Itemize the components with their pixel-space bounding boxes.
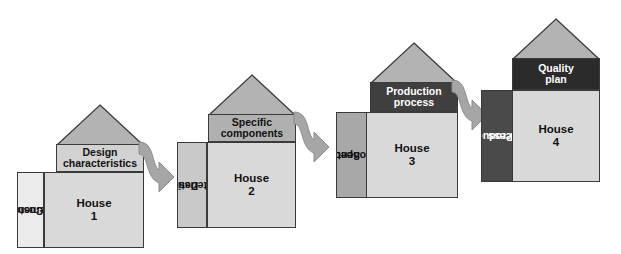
arrow-2-to-3-icon xyxy=(290,106,332,168)
house-4-body-line2: 4 xyxy=(553,136,559,148)
house-3-header-line2: process xyxy=(394,96,434,108)
house-3-header-line1: Production xyxy=(386,85,441,97)
house-3-sidebar-line2: components xyxy=(336,149,367,160)
house-3-header-band: Production process xyxy=(370,82,458,112)
house-4-sidebar-line2: process xyxy=(481,130,513,141)
house-2-roof-icon xyxy=(208,74,296,116)
house-1-body: House 1 xyxy=(44,172,144,248)
house-1-header-line2: characteristics xyxy=(63,157,137,169)
house-3-body: House 3 xyxy=(366,112,458,198)
house-4-body-line1: House xyxy=(538,123,573,135)
house-4-header-line2: plan xyxy=(545,73,567,85)
house-3-body-line2: 3 xyxy=(409,155,415,167)
house-2-sidebar-line2: characteristics xyxy=(177,179,207,190)
four-houses-of-quality-diagram: Design characteristics Customer requirem… xyxy=(0,0,621,254)
house-1-roof-icon xyxy=(56,104,144,146)
house-1-sidebar: Customer requirements xyxy=(17,172,44,248)
house-1-body-line1: House xyxy=(76,197,111,209)
house-4-header-band: Quality plan xyxy=(512,58,600,90)
house-3-body-line1: House xyxy=(394,142,429,154)
house-2-body-line2: 2 xyxy=(248,185,254,197)
house-3-roof-icon xyxy=(370,42,458,84)
house-1-body-line2: 1 xyxy=(91,210,97,222)
house-2-header-line1: Specific xyxy=(232,116,272,128)
house-1-header-band: Design characteristics xyxy=(56,144,144,172)
arrow-1-to-2-icon xyxy=(135,136,177,198)
house-4-body: House 4 xyxy=(512,90,600,182)
house-2-header-line2: components xyxy=(221,127,283,139)
house-2-header-band: Specific components xyxy=(208,114,296,142)
house-4-sidebar: Production process xyxy=(481,90,513,182)
house-1-sidebar-line2: requirements xyxy=(17,204,44,215)
house-2-body-line1: House xyxy=(234,172,269,184)
house-4-header-line1: Quality xyxy=(538,62,574,74)
house-3-sidebar: Specific components xyxy=(336,112,367,198)
house-2-sidebar: Design characteristics xyxy=(177,142,207,228)
house-4-roof-icon xyxy=(512,18,600,60)
house-1-header-line1: Design xyxy=(82,146,117,158)
house-2-body: House 2 xyxy=(207,142,296,228)
